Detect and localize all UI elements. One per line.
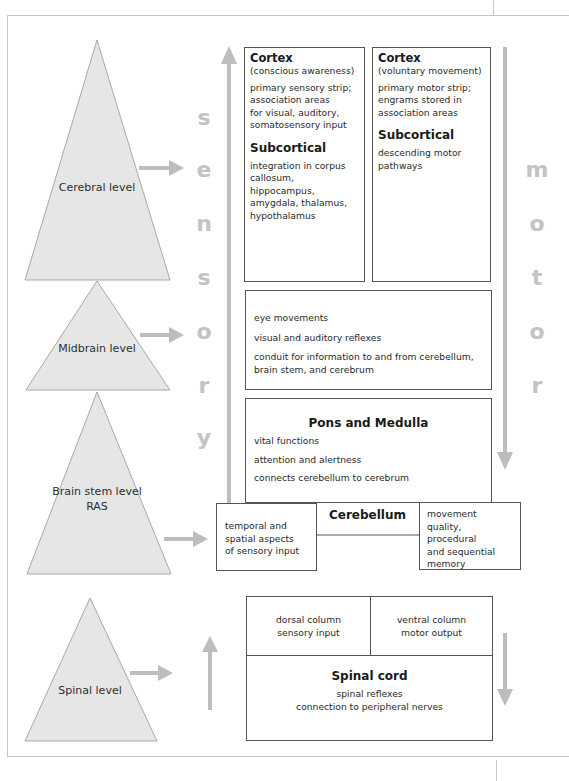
subcortical-sensory-title: Subcortical: [250, 141, 359, 156]
pons-item: vital functions: [254, 435, 483, 448]
label-line: level: [109, 181, 135, 194]
midbrain-level-label: Midbrain level: [57, 341, 137, 356]
cortex-sensory-subtitle: (conscious awareness): [250, 65, 359, 78]
spinal-level-label: Spinal level: [50, 683, 130, 698]
pons-item: connects cerebellum to cerebrum: [254, 472, 483, 485]
cerebellum-motor-text: procedural: [427, 533, 513, 546]
cortex-sensory-text: for visual, auditory,: [250, 107, 359, 120]
motor-letter: o: [525, 212, 549, 236]
cortex-sensory-text: association areas: [250, 94, 359, 107]
sensory-letter: o: [192, 320, 216, 344]
midbrain-item: visual and auditory reflexes: [254, 332, 483, 345]
cortex-sensory-box: Cortex (conscious awareness) primary sen…: [244, 47, 365, 282]
spinal-cord-item: spinal reflexes: [247, 688, 492, 701]
cortex-motor-title: Cortex: [378, 51, 485, 65]
cerebral-level-triangle: [25, 40, 170, 280]
midbrain-item: conduit for information to and from cere…: [254, 351, 483, 364]
ventral-column-text: ventral column: [371, 614, 492, 627]
cortex-motor-text: association areas: [378, 107, 485, 120]
label-line: RAS: [86, 500, 108, 513]
label-line: level: [96, 684, 122, 697]
spinal-up-arrow-icon: [202, 636, 218, 710]
midbrain-item: eye movements: [254, 312, 483, 325]
motor-letter: r: [525, 374, 549, 398]
motor-letter: t: [525, 266, 549, 290]
dorsal-column-text: sensory input: [247, 627, 370, 640]
pons-medulla-title: Pons and Medulla: [254, 416, 483, 431]
label-line: Spinal: [58, 684, 92, 697]
cerebellum-motor-text: movement quality,: [427, 508, 513, 533]
cortex-motor-text: primary motor strip;: [378, 82, 485, 95]
motor-letter: o: [525, 320, 549, 344]
sensory-letter: s: [192, 266, 216, 290]
sensory-up-arrow-icon: [221, 46, 237, 508]
sensory-letter: e: [192, 158, 216, 182]
ventral-column-cell: ventral column motor output: [371, 597, 492, 656]
arrow-right-icon: [140, 327, 184, 343]
brainstem-level-triangle: [27, 392, 171, 574]
ventral-column-text: motor output: [371, 627, 492, 640]
sensory-letter: n: [192, 212, 216, 236]
cerebral-level-label: Cerebral level: [57, 180, 137, 195]
cerebellum-sensory-text: of sensory input: [225, 545, 308, 558]
spinal-cord-box: dorsal column sensory input ventral colu…: [246, 596, 493, 741]
arrow-right-icon: [130, 665, 173, 681]
sensory-letter: y: [192, 426, 216, 450]
label-line: stem level: [85, 485, 142, 498]
subcortical-sensory-text: amygdala, thalamus,: [250, 197, 359, 210]
cerebellum-motor-box: movement quality, procedural and sequent…: [419, 502, 521, 570]
dorsal-column-text: dorsal column: [247, 614, 370, 627]
label-line: Cerebral: [59, 181, 106, 194]
cerebellum-motor-text: memory: [427, 558, 513, 571]
midbrain-functions-box: eye movements visual and auditory reflex…: [245, 290, 492, 390]
sensory-letter: r: [192, 374, 216, 398]
motor-down-arrow-icon: [497, 47, 513, 470]
spinal-cord-item: connection to peripheral nerves: [247, 701, 492, 714]
cerebellum-sensory-text: temporal and: [225, 520, 308, 533]
motor-letter: m: [525, 158, 549, 182]
brainstem-level-label: Brain stem level RAS: [52, 484, 142, 514]
spinal-cord-main: Spinal cord spinal reflexes connection t…: [247, 656, 492, 713]
spinal-down-arrow-icon: [497, 633, 513, 706]
cortex-sensory-title: Cortex: [250, 51, 359, 65]
label-line: level: [110, 342, 136, 355]
cerebellum-sensory-box: temporal and spatial aspects of sensory …: [216, 503, 317, 571]
label-line: Midbrain: [58, 342, 106, 355]
cortex-motor-box: Cortex (voluntary movement) primary moto…: [372, 47, 491, 282]
subcortical-sensory-text: integration in corpus: [250, 160, 359, 173]
pons-item: attention and alertness: [254, 454, 483, 467]
subcortical-sensory-text: callosum, hippocampus,: [250, 172, 359, 197]
cortex-motor-subtitle: (voluntary movement): [378, 65, 485, 78]
pons-medulla-box: Pons and Medulla vital functions attenti…: [245, 398, 492, 503]
spinal-cord-title: Spinal cord: [247, 669, 492, 684]
cerebellum-motor-text: and sequential: [427, 546, 513, 559]
midbrain-item: brain stem, and cerebrum: [254, 364, 483, 377]
label-line: Brain: [52, 485, 81, 498]
dorsal-column-cell: dorsal column sensory input: [247, 597, 371, 656]
arrow-right-icon: [139, 160, 184, 176]
cerebellum-sensory-text: spatial aspects: [225, 533, 308, 546]
subcortical-motor-title: Subcortical: [378, 128, 485, 143]
spinal-level-triangle: [25, 598, 157, 741]
subcortical-motor-text: descending motor: [378, 147, 485, 160]
sensory-letter: s: [192, 106, 216, 130]
cortex-sensory-text: somatosensory input: [250, 119, 359, 132]
arrow-right-icon: [164, 531, 208, 547]
cortex-motor-text: engrams stored in: [378, 94, 485, 107]
subcortical-motor-text: pathways: [378, 160, 485, 173]
cortex-sensory-text: primary sensory strip;: [250, 82, 359, 95]
subcortical-sensory-text: hypothalamus: [250, 210, 359, 223]
cerebellum-title: Cerebellum: [316, 508, 419, 523]
